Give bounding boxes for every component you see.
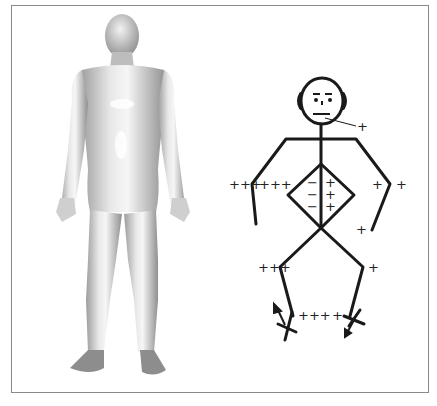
label-right-elbow-in: +: [372, 177, 383, 192]
label-left-shoulder-out: +++: [229, 177, 262, 192]
label-torso-right-2: +: [325, 199, 336, 214]
mesh-left-foot: [70, 350, 104, 372]
right-eye: [329, 99, 331, 101]
label-torso-left-2: −: [307, 199, 318, 214]
body-mesh-3d: [56, 14, 190, 375]
mesh-highlight-chest: [110, 99, 134, 109]
right-foot-arrowhead-icon: [345, 329, 351, 337]
label-left-ankle: +++: [298, 308, 331, 323]
mesh-left-hand: [56, 198, 76, 222]
label-left-knee: +++: [258, 260, 291, 275]
label-chin: +: [357, 119, 368, 134]
stick-figure: [252, 78, 390, 340]
mesh-left-leg: [86, 210, 122, 352]
mesh-left-arm: [59, 70, 88, 216]
label-right-wrist: +: [356, 222, 367, 237]
stick-right-leg: [321, 228, 363, 316]
left-foot-arrowhead-icon: [274, 304, 281, 313]
stick-left-ear: [299, 94, 301, 108]
label-right-ankle: +: [332, 308, 343, 323]
stick-right-ear: [343, 94, 345, 108]
left-eye: [315, 99, 317, 101]
mesh-right-leg: [124, 210, 158, 352]
label-right-knee: +: [368, 260, 379, 275]
figure-canvas: + +++ +++ + + − − − + + + + +++ + +++ +: [0, 0, 437, 406]
mesh-highlight-belly: [115, 131, 127, 159]
mesh-right-foot: [140, 350, 166, 375]
mesh-right-hand: [170, 198, 190, 222]
mesh-right-arm: [158, 70, 187, 216]
mesh-head: [105, 14, 139, 58]
label-right-shoulder-out: +: [396, 177, 407, 192]
label-left-elbow-in: +++: [259, 177, 292, 192]
